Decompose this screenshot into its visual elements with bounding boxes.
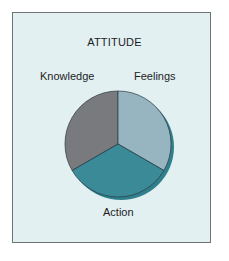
pie-chart bbox=[0, 0, 229, 261]
